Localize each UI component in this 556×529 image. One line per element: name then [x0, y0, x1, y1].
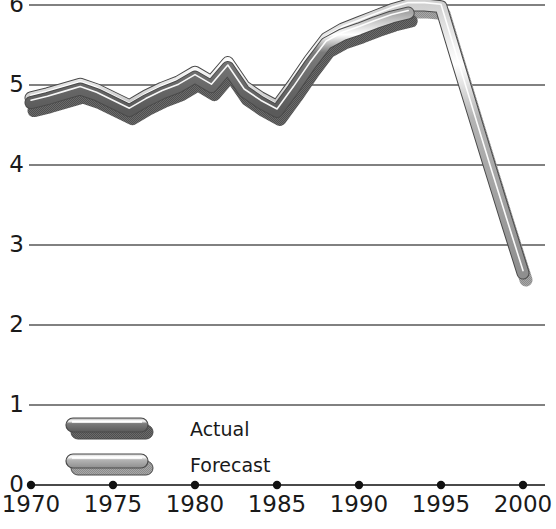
y-axis-tick-label: 2 [0, 313, 24, 336]
y-axis-tick-label: 4 [0, 153, 24, 176]
x-axis-tick-label: 1980 [150, 493, 240, 516]
y-axis-tick-label: 3 [0, 233, 24, 256]
legend-swatches [66, 418, 153, 475]
y-axis-tick-label: 6 [0, 0, 24, 16]
x-axis-tick-label: 1970 [0, 493, 76, 516]
x-axis-tick-label: 2000 [478, 493, 556, 516]
legend-label-actual: Actual [190, 420, 250, 439]
x-axis-tick-label: 1985 [232, 493, 322, 516]
series-forecast-line [31, 3, 523, 273]
y-axis-tick-label: 5 [0, 73, 24, 96]
x-axis-tick-label: 1975 [68, 493, 158, 516]
y-axis-tick-label: 1 [0, 393, 24, 416]
x-axis-tick-label: 1990 [314, 493, 404, 516]
x-axis-tick-label: 1995 [396, 493, 486, 516]
legend-label-forecast: Forecast [190, 456, 270, 475]
